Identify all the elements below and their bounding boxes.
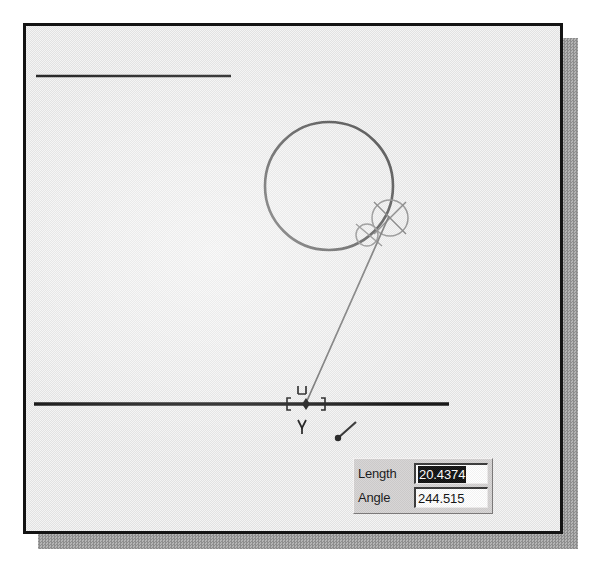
angle-value: 244.515 [418, 491, 464, 506]
angle-label: Angle [358, 486, 414, 509]
length-input[interactable]: 20.4374 [414, 463, 488, 484]
main-circle[interactable] [265, 122, 393, 250]
length-field-row[interactable]: Length 20.4374 [358, 462, 488, 485]
cad-geometry-layer [26, 26, 560, 531]
pencil-cursor [335, 422, 356, 441]
length-value: 20.4374 [418, 466, 466, 483]
rubber-band-line [306, 216, 389, 403]
length-label: Length [358, 462, 414, 485]
midpoint-snap-marker [287, 386, 325, 434]
cad-drawing-canvas[interactable]: Length 20.4374 Angle 244.515 [26, 26, 560, 531]
angle-input[interactable]: 244.515 [414, 487, 488, 508]
scanned-page: Length 20.4374 Angle 244.515 [0, 0, 594, 571]
dynamic-input-panel[interactable]: Length 20.4374 Angle 244.515 [353, 458, 493, 514]
angle-field-row[interactable]: Angle 244.515 [358, 486, 488, 509]
cad-viewport-frame: Length 20.4374 Angle 244.515 [23, 23, 563, 534]
